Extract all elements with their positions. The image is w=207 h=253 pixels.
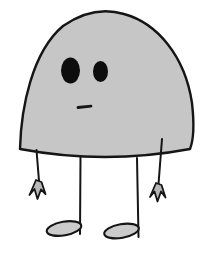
right-eye [93, 61, 108, 82]
left-arm [37, 150, 40, 181]
creature-body [20, 11, 193, 157]
right-hand-claw [150, 183, 166, 202]
illustration-canvas [0, 0, 207, 253]
left-eye [61, 58, 80, 84]
left-foot [46, 219, 83, 238]
left-hand-claw [30, 180, 46, 199]
creature-illustration [0, 0, 207, 253]
mouth [78, 106, 91, 107]
right-foot [103, 221, 140, 240]
